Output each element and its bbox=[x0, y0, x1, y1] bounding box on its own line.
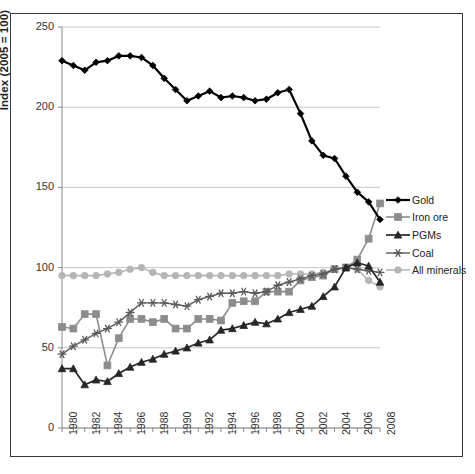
y-tick-label: 0 bbox=[20, 421, 54, 433]
data-point bbox=[377, 200, 384, 207]
data-point bbox=[81, 272, 88, 279]
data-point bbox=[240, 272, 247, 279]
data-point bbox=[394, 249, 402, 256]
data-point bbox=[115, 335, 122, 342]
data-point bbox=[172, 325, 179, 332]
data-point bbox=[274, 315, 282, 322]
x-tick-label: 1986 bbox=[135, 412, 147, 435]
data-point bbox=[194, 296, 202, 303]
legend-marker-star-icon bbox=[385, 246, 411, 260]
x-tick-label: 1984 bbox=[112, 412, 124, 435]
legend-label: Coal bbox=[412, 247, 434, 259]
x-tick-label: 1980 bbox=[67, 412, 79, 435]
data-point bbox=[252, 272, 259, 279]
x-tick-label: 2008 bbox=[385, 412, 397, 435]
data-point bbox=[252, 298, 259, 305]
data-point bbox=[228, 290, 236, 297]
y-tick-label: 200 bbox=[20, 100, 54, 112]
data-point bbox=[217, 290, 225, 297]
data-point bbox=[240, 288, 248, 295]
data-point bbox=[297, 110, 304, 117]
data-point bbox=[274, 272, 281, 279]
legend-item-gold[interactable]: Gold bbox=[385, 191, 466, 209]
y-tick-label: 150 bbox=[20, 180, 54, 192]
data-point bbox=[93, 272, 100, 279]
x-tick-label: 2004 bbox=[340, 412, 352, 435]
data-point bbox=[172, 301, 180, 308]
data-point bbox=[184, 272, 191, 279]
data-point bbox=[127, 53, 134, 60]
x-tick-label: 2002 bbox=[317, 412, 329, 435]
y-tick-label: 100 bbox=[20, 261, 54, 273]
legend-marker-square-icon bbox=[385, 210, 411, 224]
data-point bbox=[218, 317, 225, 324]
data-point bbox=[240, 94, 247, 101]
legend-item-coal[interactable]: Coal bbox=[385, 244, 466, 262]
data-point bbox=[184, 325, 191, 332]
chart-figure: Index (2005 = 100) 050100150200250 19801… bbox=[0, 0, 475, 474]
data-point bbox=[395, 196, 402, 203]
data-point bbox=[115, 370, 123, 377]
data-point bbox=[229, 299, 236, 306]
data-point bbox=[195, 272, 202, 279]
data-point bbox=[263, 272, 270, 279]
data-point bbox=[206, 316, 213, 323]
data-point bbox=[274, 282, 282, 289]
data-point bbox=[218, 272, 225, 279]
x-tick-label: 1994 bbox=[226, 412, 238, 435]
data-point bbox=[59, 272, 66, 279]
legend-label: All minerals bbox=[412, 264, 466, 276]
data-point bbox=[161, 272, 168, 279]
data-point bbox=[138, 316, 145, 323]
x-tick-label: 1996 bbox=[249, 412, 261, 435]
data-point bbox=[395, 214, 402, 221]
data-point bbox=[395, 267, 402, 274]
data-point bbox=[70, 325, 77, 332]
legend-item-all-minerals[interactable]: All minerals bbox=[385, 261, 466, 279]
data-point bbox=[183, 303, 191, 310]
data-point bbox=[70, 62, 77, 69]
legend-marker-diamond-icon bbox=[385, 193, 411, 207]
data-point bbox=[160, 300, 168, 307]
data-point bbox=[104, 325, 112, 332]
data-point bbox=[206, 272, 213, 279]
data-point bbox=[127, 266, 134, 273]
data-point bbox=[286, 288, 293, 295]
x-tick-label: 2006 bbox=[362, 412, 374, 435]
data-point bbox=[150, 269, 157, 276]
legend-item-pgms[interactable]: PGMs bbox=[385, 226, 466, 244]
series-gold bbox=[59, 53, 384, 223]
legend-item-iron-ore[interactable]: Iron ore bbox=[385, 209, 466, 227]
x-tick-label: 1982 bbox=[90, 412, 102, 435]
x-tick-label: 1992 bbox=[203, 412, 215, 435]
data-point bbox=[229, 93, 236, 100]
data-point bbox=[59, 324, 66, 331]
data-point bbox=[252, 97, 259, 104]
data-point bbox=[331, 283, 339, 290]
data-point bbox=[297, 271, 304, 278]
data-point bbox=[251, 290, 259, 297]
data-point bbox=[274, 288, 281, 295]
data-point bbox=[115, 269, 122, 276]
series-line bbox=[62, 56, 380, 220]
data-point bbox=[138, 264, 145, 271]
data-point bbox=[365, 235, 372, 242]
data-point bbox=[285, 279, 293, 286]
data-point bbox=[70, 272, 77, 279]
data-point bbox=[195, 316, 202, 323]
data-point bbox=[149, 300, 157, 307]
data-point bbox=[127, 316, 134, 323]
data-point bbox=[376, 269, 384, 276]
legend-label: PGMs bbox=[412, 229, 441, 241]
data-point bbox=[92, 330, 100, 337]
x-tick-label: 1988 bbox=[158, 412, 170, 435]
legend-label: Iron ore bbox=[412, 211, 448, 223]
chart-legend: GoldIron orePGMsCoalAll minerals bbox=[385, 191, 466, 279]
legend-marker-triangle-icon bbox=[385, 228, 411, 242]
data-point bbox=[59, 57, 66, 64]
data-point bbox=[229, 272, 236, 279]
x-tick-label: 2000 bbox=[294, 412, 306, 435]
data-point bbox=[286, 86, 293, 93]
data-point bbox=[161, 316, 168, 323]
data-point bbox=[81, 311, 88, 318]
